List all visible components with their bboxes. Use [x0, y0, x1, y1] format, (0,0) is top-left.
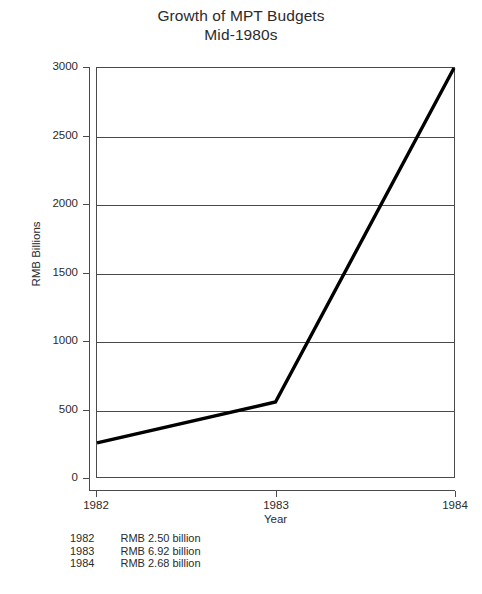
x-axis-line: [89, 490, 455, 491]
x-tick-mark: [96, 491, 97, 497]
data-line: [97, 68, 454, 477]
y-tick-mark: [83, 67, 89, 68]
y-tick-label: 2000: [18, 198, 78, 209]
chart-figure: Growth of MPT Budgets Mid-1980s RMB Bill…: [0, 0, 482, 594]
y-tick-label: 500: [18, 404, 78, 415]
chart-title: Growth of MPT Budgets Mid-1980s: [0, 6, 482, 44]
chart-title-line-2: Mid-1980s: [0, 25, 482, 44]
x-tick-label: 1983: [241, 499, 311, 511]
y-tick-label: 1000: [18, 335, 78, 346]
y-tick-mark: [83, 204, 89, 205]
y-tick-mark: [83, 478, 89, 479]
footnote-year: 1984: [70, 558, 120, 571]
x-tick-mark: [455, 491, 456, 497]
x-tick-label: 1982: [61, 499, 131, 511]
footnote-year: 1982: [70, 533, 120, 546]
y-tick-label: 3000: [18, 61, 78, 72]
y-axis-line: [89, 67, 90, 491]
footnote-table-body: 1982RMB 2.50 billion1983RMB 6.92 billion…: [70, 533, 201, 571]
y-tick-mark: [83, 410, 89, 411]
y-tick-mark: [83, 136, 89, 137]
x-axis-title: Year: [96, 513, 455, 525]
footnote-amount: RMB 2.68 billion: [120, 558, 200, 571]
y-axis-title: RMB Billions: [30, 209, 42, 299]
y-tick-label: 0: [18, 472, 78, 483]
y-tick-label: 2500: [18, 130, 78, 141]
x-tick-mark: [276, 491, 277, 497]
chart-title-line-1: Growth of MPT Budgets: [157, 7, 324, 24]
y-tick-label: 1500: [18, 267, 78, 278]
x-tick-label: 1984: [420, 499, 482, 511]
footnote-value-table: 1982RMB 2.50 billion1983RMB 6.92 billion…: [70, 533, 201, 571]
plot-area: [96, 67, 455, 478]
table-row: 1982RMB 2.50 billion: [70, 533, 201, 546]
table-row: 1984RMB 2.68 billion: [70, 558, 201, 571]
y-tick-mark: [83, 341, 89, 342]
footnote-amount: RMB 2.50 billion: [120, 533, 200, 546]
y-tick-mark: [83, 273, 89, 274]
